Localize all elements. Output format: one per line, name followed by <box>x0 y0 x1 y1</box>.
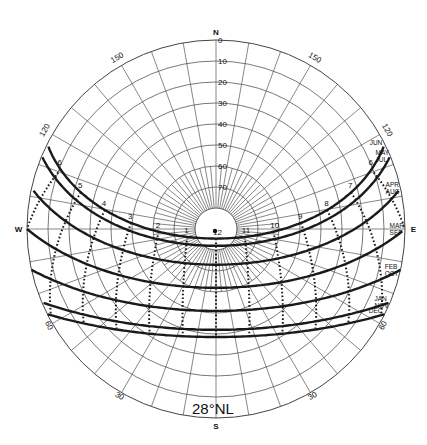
month-label-dec: DEC <box>369 307 383 314</box>
bearing-label: 60 <box>43 319 56 332</box>
month-label-may: MAY <box>376 149 390 156</box>
altitude-label: 30 <box>218 99 227 108</box>
compass-label-s: S <box>213 422 219 431</box>
bearing-label: 120 <box>380 122 395 139</box>
sun-path-diagram: 010203040506070NESW15015012012060603030J… <box>0 0 427 445</box>
bearing-label: 120 <box>37 122 52 139</box>
month-label-jun: JUN <box>370 139 383 146</box>
month-label-aug: AUG <box>386 188 400 195</box>
hour-label: 7 <box>348 181 353 190</box>
hour-label: 6 <box>368 158 373 167</box>
altitude-label: 0 <box>218 36 223 45</box>
bearing-label: 30 <box>306 390 319 403</box>
altitude-label: 50 <box>218 141 227 150</box>
bearing-label: 60 <box>377 319 390 332</box>
month-label-feb: FEB <box>385 263 398 270</box>
hour-label: 4 <box>102 199 107 208</box>
month-label-mar: MAR <box>390 222 405 229</box>
month-label-sep: SEP <box>390 229 403 236</box>
altitude-label: 60 <box>218 162 227 171</box>
hour-label: 5 <box>78 181 83 190</box>
zenith-marker <box>213 229 217 233</box>
bearing-label: 30 <box>113 390 126 403</box>
hour-label: 9 <box>298 212 303 221</box>
month-label-oct: OCT <box>385 270 399 277</box>
bearing-label: 150 <box>109 50 126 65</box>
altitude-label: 70 <box>218 183 227 192</box>
hour-label: 10 <box>270 221 279 230</box>
altitude-label: 20 <box>218 78 227 87</box>
hour-label: 8 <box>324 199 329 208</box>
bearing-label: 150 <box>307 50 324 65</box>
latitude-title: 28°NL <box>192 400 234 417</box>
altitude-label: 40 <box>218 120 227 129</box>
compass-label-n: N <box>213 28 219 37</box>
compass-label-e: E <box>411 225 417 234</box>
month-label-jul: JUL <box>376 156 388 163</box>
hour-label: 1 <box>184 226 189 235</box>
month-label-jan: JAN <box>374 295 387 302</box>
hour-label: 2 <box>156 221 161 230</box>
month-label-apr: APR <box>386 181 400 188</box>
altitude-label: 10 <box>218 57 227 66</box>
hour-label: 6 <box>58 158 63 167</box>
compass-label-w: W <box>15 225 23 234</box>
hour-label: 11 <box>242 226 251 235</box>
hour-label: 3 <box>128 212 133 221</box>
